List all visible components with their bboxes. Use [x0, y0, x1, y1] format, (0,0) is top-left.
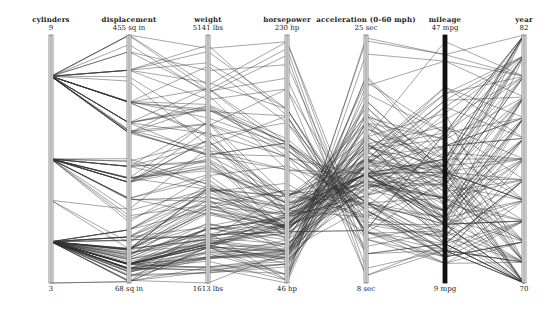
axis-min-year: 70: [484, 285, 559, 293]
axis-min-cylinders: 3: [11, 285, 91, 293]
axis-max-mileage: 47 mpg: [405, 24, 485, 32]
axis-max-displacement: 455 sq in: [89, 24, 169, 32]
axis-min-acceleration: 8 sec: [326, 285, 406, 293]
parallel-coordinates-plot: [0, 0, 559, 310]
axis-max-horsepower: 230 hp: [247, 24, 327, 32]
axis-min-horsepower: 46 hp: [247, 285, 327, 293]
axis-min-weight: 1613 lbs: [168, 285, 248, 293]
axis-max-cylinders: 9: [11, 24, 91, 32]
axis-max-year: 82: [484, 24, 559, 32]
axis-min-displacement: 68 sq in: [89, 285, 169, 293]
axis-title-year: year: [469, 15, 559, 24]
axis-max-acceleration: 25 sec: [326, 24, 406, 32]
axis-max-weight: 5141 lbs: [168, 24, 248, 32]
axis-mileage: [443, 35, 447, 283]
axis-min-mileage: 9 mpg: [405, 285, 485, 293]
